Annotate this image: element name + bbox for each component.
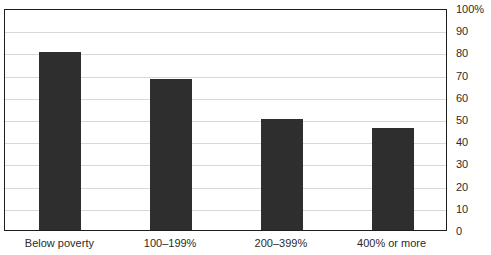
y-axis-tick-label: 80	[456, 48, 468, 59]
y-axis-tick-label: 100%	[456, 4, 484, 15]
bars-layer	[5, 10, 446, 230]
y-axis-tick-label: 50	[456, 115, 468, 126]
chart-title-cropped	[4, 0, 444, 4]
bar	[372, 128, 414, 230]
y-axis-tick-label: 10	[456, 204, 468, 215]
y-axis: 0102030405060708090100%	[447, 0, 491, 255]
y-axis-tick-label: 30	[456, 159, 468, 170]
y-axis-tick-label: 20	[456, 182, 468, 193]
bar	[150, 79, 192, 230]
x-axis-category-label: 200–399%	[255, 236, 308, 250]
chart-screenshot: 0102030405060708090100% Below poverty100…	[0, 0, 491, 255]
plot-area	[4, 9, 447, 231]
y-axis-tick-label: 90	[456, 26, 468, 37]
y-axis-tick-label: 60	[456, 93, 468, 104]
x-axis: Below poverty100–199%200–399%400% or mor…	[4, 236, 447, 252]
x-axis-category-label: Below poverty	[25, 236, 94, 250]
x-axis-category-label: 100–199%	[144, 236, 197, 250]
x-axis-category-label: 400% or more	[357, 236, 426, 250]
y-axis-tick-label: 70	[456, 71, 468, 82]
y-axis-tick-label: 40	[456, 137, 468, 148]
y-axis-tick-label: 0	[456, 226, 462, 237]
bar	[39, 52, 81, 230]
bar	[261, 119, 303, 230]
